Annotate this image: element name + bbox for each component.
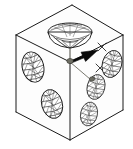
lower-hub [89,77,94,81]
figure-root: Isometric cube with wireframe lobe objec… [0,0,133,149]
center-hub [67,58,73,63]
isometric-cube-diagram [0,0,133,149]
